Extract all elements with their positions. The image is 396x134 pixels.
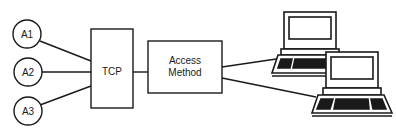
- access-method-label-line2: Method: [168, 67, 201, 78]
- app-label-a2: A2: [22, 67, 35, 78]
- app-node-a1: A1: [13, 20, 41, 48]
- app-node-a2: A2: [14, 58, 42, 86]
- app-node-a3: A3: [14, 97, 42, 125]
- tcp-label: TCP: [102, 66, 122, 77]
- app-label-a1: A1: [21, 29, 34, 40]
- connector-a3-tcp: [40, 86, 91, 105]
- app-label-a3: A3: [22, 106, 35, 117]
- diagram-canvas: A1 A2 A3 TCP Access Method: [0, 0, 396, 134]
- connector-access-terminal2: [222, 78, 316, 97]
- access-method-box: Access Method: [148, 41, 222, 93]
- connector-a1-tcp: [40, 41, 91, 61]
- tcp-box: TCP: [91, 29, 133, 108]
- access-method-label-line1: Access: [169, 55, 201, 66]
